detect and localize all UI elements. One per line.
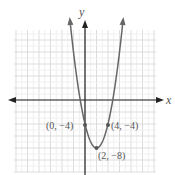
point-label-vertex: (2, −8): [98, 150, 125, 162]
parabola-chart: y x (0, −4) (4, −4) (2, −8): [0, 0, 175, 175]
curve-left-arrow-icon: [67, 17, 73, 25]
curve-right-arrow-icon: [120, 17, 126, 25]
point-label-0-neg4: (0, −4): [46, 120, 73, 132]
y-axis-label: y: [78, 5, 85, 19]
y-axis-arrow-icon: [82, 20, 88, 28]
point-4-neg4: [106, 123, 110, 127]
y-axis: [82, 20, 88, 175]
x-axis-label: x: [165, 93, 172, 107]
point-0-neg4: [83, 123, 87, 127]
x-axis-right-arrow-icon: [156, 97, 164, 103]
x-axis-left-arrow-icon: [8, 97, 16, 103]
point-label-4-neg4: (4, −4): [111, 120, 138, 132]
chart-svg: y x (0, −4) (4, −4) (2, −8): [0, 0, 175, 175]
x-axis: [8, 97, 164, 103]
